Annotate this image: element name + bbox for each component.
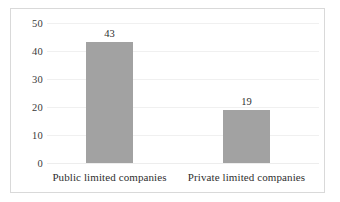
gridline-0 <box>47 163 319 164</box>
y-tick-label-40: 40 <box>17 46 43 57</box>
bar-private-limited-companies[interactable] <box>223 110 270 163</box>
x-category-label-private: Private limited companies <box>164 171 329 184</box>
bar-public-limited-companies[interactable] <box>86 42 133 163</box>
y-tick-label-20: 20 <box>17 102 43 113</box>
y-tick-label-50: 50 <box>17 18 43 29</box>
y-tick-label-30: 30 <box>17 74 43 85</box>
plot-area: 50 40 30 20 10 0 43 19 Public limited co… <box>11 9 326 194</box>
bar-chart-figure: 50 40 30 20 10 0 43 19 Public limited co… <box>0 0 340 202</box>
y-tick-label-10: 10 <box>17 130 43 141</box>
bar-value-label-public: 43 <box>86 28 133 39</box>
gridline-50 <box>47 23 319 24</box>
bar-value-label-private: 19 <box>223 96 270 107</box>
plot-frame: 50 40 30 20 10 0 43 19 Public limited co… <box>10 8 325 193</box>
y-tick-label-0: 0 <box>17 158 43 169</box>
